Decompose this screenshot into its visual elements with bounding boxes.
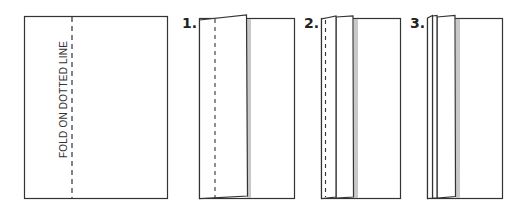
step-3-figure (428, 16, 503, 199)
step-3-label: 3. (410, 16, 425, 30)
step-1-figure (200, 15, 295, 199)
folded-flap-2 (433, 16, 438, 199)
folded-flap-outer (322, 16, 337, 199)
fold-shadow (456, 19, 460, 198)
fold-shadow (354, 19, 358, 198)
step-2-figure (322, 16, 401, 199)
folded-flap-3 (437, 16, 456, 199)
folding-diagram (0, 0, 527, 210)
fold-instruction-text: FOLD ON DOTTED LINE (58, 41, 69, 158)
folded-flap (200, 15, 248, 199)
flat-sheet (25, 17, 168, 199)
folded-flap-inner (336, 16, 354, 198)
folded-flap-1 (428, 16, 433, 199)
step-1-label: 1. (182, 16, 197, 30)
step-2-label: 2. (304, 16, 319, 30)
